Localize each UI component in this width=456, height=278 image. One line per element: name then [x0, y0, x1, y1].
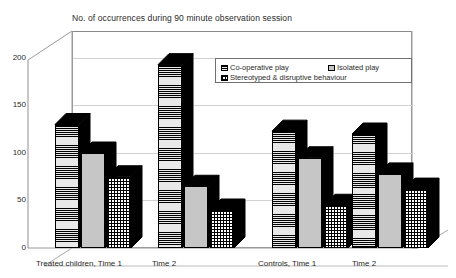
bar-4-stereotyped-disruptive-behaviour [404, 189, 428, 248]
bar-3-isolated-play [298, 158, 322, 248]
x-label-treated-time-1: Treated children, Time 1 [36, 259, 122, 268]
bar-1-stereotyped-disruptive-behaviour [107, 177, 131, 248]
legend-swatch-checkered-icon [221, 75, 228, 81]
bar-2-co-operative-play [158, 65, 182, 248]
legend-item-co-operative-play: Co-operative play [221, 63, 289, 72]
bar-3-stereotyped-disruptive-behaviour [324, 205, 348, 248]
bar-1-co-operative-play [55, 125, 79, 249]
bar-2-stereotyped-disruptive-behaviour [210, 210, 234, 248]
bar-1-isolated-play [81, 153, 105, 248]
x-label-treated-time-2: Time 2 [152, 259, 176, 268]
bar-2-isolated-play [184, 186, 208, 248]
chart-legend: Co-operative play Isolated play Stereoty… [215, 58, 412, 83]
bar-layer [0, 0, 456, 278]
legend-swatch-horizontal-lines-icon [221, 65, 228, 71]
x-label-controls-time-1: Controls, Time 1 [258, 259, 316, 268]
bar-4-co-operative-play [352, 134, 376, 248]
bar-4-isolated-play [378, 174, 402, 248]
legend-swatch-solid-grey-icon [328, 65, 335, 71]
x-label-controls-time-2: Time 2 [352, 259, 376, 268]
legend-label-isolated-play: Isolated play [337, 63, 379, 72]
legend-item-isolated-play: Isolated play [328, 63, 379, 72]
chart-root: No. of occurrences during 90 minute obse… [0, 0, 456, 278]
legend-item-stereotyped-disruptive-behaviour: Stereotyped & disruptive behaviour [221, 73, 347, 82]
legend-label-co-operative-play: Co-operative play [230, 63, 289, 72]
bar-3-co-operative-play [272, 131, 296, 248]
legend-label-stereotyped-disruptive-behaviour: Stereotyped & disruptive behaviour [230, 73, 347, 82]
